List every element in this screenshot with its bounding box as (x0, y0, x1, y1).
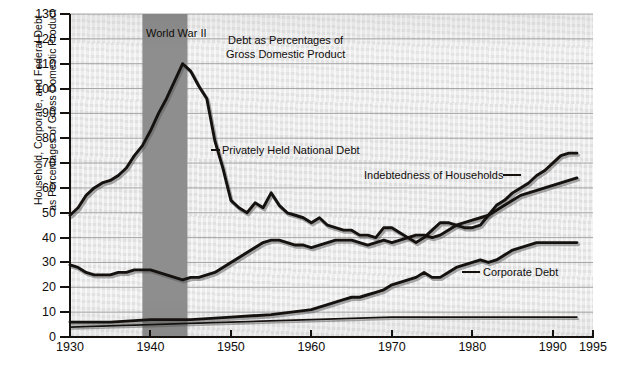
x-tick-1990 (552, 330, 554, 338)
x-tick-label-1950: 1950 (201, 341, 261, 354)
y-tick-120 (60, 38, 70, 40)
y-tick-label-120: 120 (0, 33, 56, 46)
chart-title-line1: Debt as Percentages of (226, 33, 345, 47)
y-tick-110 (60, 63, 70, 65)
y-tick-label-80: 80 (0, 132, 56, 145)
x-tick-1995 (592, 330, 594, 338)
y-tick-30 (60, 261, 70, 263)
x-tick-label-1995: 1995 (563, 341, 619, 354)
y-tick-label-30: 30 (0, 256, 56, 269)
y-tick-90 (60, 112, 70, 114)
y-tick-130 (60, 13, 70, 15)
y-tick-label-100: 100 (0, 83, 56, 96)
x-axis-line (69, 336, 594, 338)
y-tick-10 (60, 311, 70, 313)
y-tick-label-40: 40 (0, 232, 56, 245)
x-tick-1930 (69, 330, 71, 338)
series-label-households: Indebtedness of Households (364, 168, 503, 182)
y-tick-label-60: 60 (0, 182, 56, 195)
y-tick-label-90: 90 (0, 107, 56, 120)
leader-line-national-debt (211, 149, 220, 151)
y-tick-20 (60, 286, 70, 288)
x-tick-label-1960: 1960 (281, 341, 341, 354)
y-tick-80 (60, 137, 70, 139)
y-tick-60 (60, 187, 70, 189)
x-tick-1960 (310, 330, 312, 338)
y-tick-40 (60, 237, 70, 239)
x-tick-label-1970: 1970 (362, 341, 422, 354)
series-label-corporate-debt: Corporate Debt (483, 265, 558, 279)
chart-title-line2: Gross Domestic Product (226, 47, 345, 61)
y-tick-70 (60, 162, 70, 164)
y-tick-50 (60, 212, 70, 214)
chart-title: Debt as Percentages of Gross Domestic Pr… (226, 33, 345, 62)
series-label-national-debt: Privately Held National Debt (222, 143, 360, 157)
chart-figure: 0102030405060708090100110120130 19301940… (0, 0, 619, 367)
x-tick-1950 (230, 330, 232, 338)
x-tick-label-1980: 1980 (442, 341, 502, 354)
y-tick-label-110: 110 (0, 58, 56, 71)
y-tick-label-70: 70 (0, 157, 56, 170)
x-tick-1980 (471, 330, 473, 338)
y-tick-label-130: 130 (0, 8, 56, 21)
y-tick-label-20: 20 (0, 281, 56, 294)
x-tick-label-1930: 1930 (40, 341, 100, 354)
y-tick-label-50: 50 (0, 207, 56, 220)
x-tick-1970 (391, 330, 393, 338)
x-tick-label-1940: 1940 (120, 341, 180, 354)
y-tick-100 (60, 88, 70, 90)
world-war-2-label: World War II (146, 26, 207, 40)
leader-line-households (503, 174, 521, 176)
y-tick-label-10: 10 (0, 306, 56, 319)
leader-line-corporate-debt (462, 271, 480, 273)
x-tick-1940 (149, 330, 151, 338)
